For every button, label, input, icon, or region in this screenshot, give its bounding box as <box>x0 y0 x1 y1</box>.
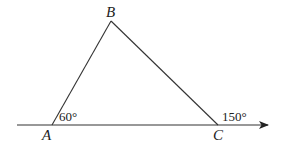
triangle-diagram: B A C 60° 150° <box>0 0 281 145</box>
vertex-label-c: C <box>213 128 223 143</box>
side-bc <box>111 21 218 125</box>
angle-label-a: 60° <box>59 110 77 123</box>
vertex-label-b: B <box>106 5 115 20</box>
vertex-label-a: A <box>42 128 51 143</box>
angle-label-c-exterior: 150° <box>222 110 247 123</box>
